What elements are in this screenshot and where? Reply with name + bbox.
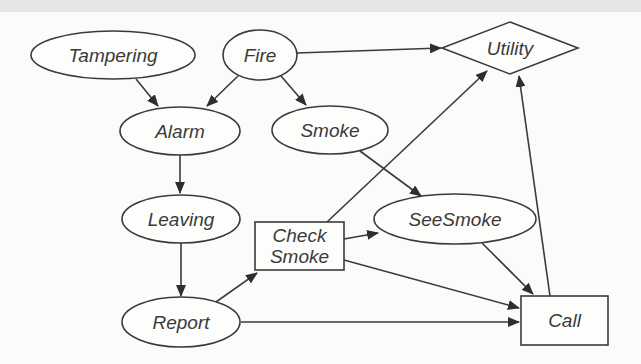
node-label: Call [548, 310, 582, 331]
node-tampering[interactable]: Tampering [31, 31, 195, 79]
node-check-smoke[interactable]: CheckSmoke [255, 222, 344, 270]
node-label: Check [273, 225, 328, 246]
edge-check-smoke-to-see-smoke [344, 233, 378, 239]
node-label: Tampering [68, 45, 158, 66]
node-smoke[interactable]: Smoke [272, 106, 388, 154]
decision-network-diagram: TamperingFireUtilityAlarmSmokeLeavingChe… [0, 0, 641, 364]
node-report[interactable]: Report [122, 297, 240, 347]
node-alarm[interactable]: Alarm [120, 107, 240, 155]
node-leaving[interactable]: Leaving [122, 195, 240, 243]
edges-layer [136, 48, 550, 322]
node-label: SeeSmoke [409, 209, 502, 230]
edge-report-to-check-smoke [216, 273, 257, 302]
node-call[interactable]: Call [521, 296, 608, 345]
node-label: Leaving [148, 209, 215, 230]
node-label: Report [152, 312, 210, 333]
edge-check-smoke-to-call [344, 260, 519, 308]
node-label: Fire [244, 45, 277, 66]
node-label: Smoke [300, 120, 359, 141]
edge-see-smoke-to-call [482, 243, 533, 294]
node-fire[interactable]: Fire [223, 30, 297, 80]
node-see-smoke[interactable]: SeeSmoke [374, 194, 536, 244]
edge-fire-to-alarm [207, 76, 238, 106]
node-utility[interactable]: Utility [442, 22, 578, 74]
edge-call-to-utility [519, 76, 550, 296]
edge-fire-to-utility [297, 48, 441, 53]
node-label: Smoke [270, 246, 329, 267]
node-label: Alarm [154, 121, 205, 142]
edge-tampering-to-alarm [136, 79, 158, 106]
nodes-layer: TamperingFireUtilityAlarmSmokeLeavingChe… [31, 22, 608, 347]
node-label: Utility [487, 38, 535, 59]
edge-smoke-to-see-smoke [360, 151, 421, 196]
edge-fire-to-smoke [281, 76, 306, 105]
